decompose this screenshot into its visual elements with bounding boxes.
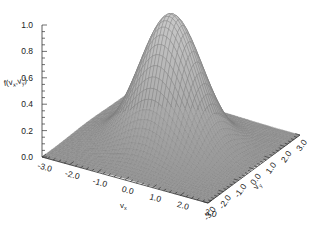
y-tick-label: 3.0 [294, 137, 309, 153]
y-tick-label: 2.0 [279, 149, 294, 165]
z-tick-label: 0.0 [21, 152, 33, 162]
z-axis: 0.00.20.40.60.81.0 [21, 20, 47, 162]
x-tick-label: -3.0 [36, 160, 53, 174]
y-tick-label: -2.0 [217, 193, 234, 211]
z-tick-label: 0.2 [21, 126, 33, 136]
x-tick-label: -1.0 [92, 176, 109, 190]
x-tick-label: 2.0 [176, 199, 190, 212]
z-axis-title: f(vx,vy) [3, 76, 28, 89]
z-axis-tick-labels: 0.00.20.40.60.81.0 [21, 20, 33, 162]
y-tick-label: -3.0 [201, 204, 218, 222]
gaussian-surface-mesh [42, 14, 300, 203]
z-tick-label: 1.0 [21, 20, 33, 30]
x-tick-label: 0.0 [121, 184, 135, 197]
y-tick-label: 1.0 [263, 160, 278, 176]
z-tick-label: 0.8 [21, 46, 33, 56]
surface-plot: 0.00.20.40.60.81.0 -3.0-2.0-1.00.01.02.0… [0, 0, 319, 232]
z-tick-label: 0.4 [21, 99, 33, 109]
y-tick-label: -1.0 [232, 182, 249, 200]
z-axis-ticks [42, 25, 47, 157]
x-tick-label: -2.0 [64, 168, 81, 182]
x-tick-label: 1.0 [148, 191, 162, 204]
x-axis-title: vx [120, 201, 127, 211]
